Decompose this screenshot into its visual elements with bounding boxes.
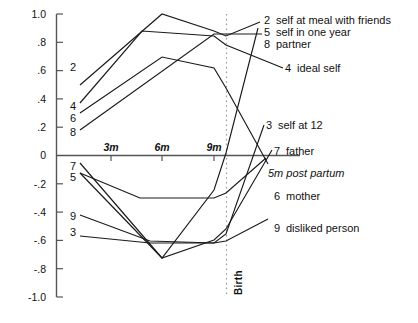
series-number-2: 2 — [62, 62, 76, 73]
legend-label-8: partner — [276, 38, 311, 50]
y-tick-label-4: .4 — [12, 94, 46, 104]
series-number-9: 9 — [62, 211, 76, 222]
legend-label-2: self at meal with friends — [276, 14, 391, 26]
repertory-grid-line-chart: 1.0 .8 .6 .4 .2 0 -.2 -.4 -.6 -.8 -1.0 3… — [0, 0, 418, 323]
legend-number-5: 5 — [258, 26, 270, 38]
y-tick-label-2: .8 — [12, 37, 46, 47]
series-number-3: 3 — [62, 227, 76, 238]
y-tick-label-3: .6 — [12, 65, 46, 75]
series-number-5: 5 — [62, 172, 76, 183]
legend-number-3: 3 — [260, 119, 272, 131]
series-number-8: 8 — [62, 127, 76, 138]
y-tick-label-1: 1.0 — [12, 9, 46, 19]
y-tick-label-6: 0 — [12, 150, 46, 160]
legend-label-7: father — [286, 145, 314, 157]
legend-label-3: self at 12 — [278, 119, 323, 131]
series-number-6: 6 — [62, 113, 76, 124]
legend-label-4: ideal self — [297, 62, 340, 74]
legend-label-6: mother — [286, 190, 320, 202]
legend-number-4: 4 — [279, 62, 291, 74]
series-line-6-lower — [80, 158, 266, 198]
legend-number-6: 6 — [268, 190, 280, 202]
legend-label-9: disliked person — [286, 222, 359, 234]
y-tick-label-11: -1.0 — [12, 292, 46, 302]
y-tick-label-9: -.6 — [12, 235, 46, 245]
x-tick-label-9m: 9m — [199, 142, 229, 153]
series-line-2 — [80, 14, 260, 85]
birth-label: Birth — [233, 270, 244, 295]
y-tick-label-10: -.8 — [12, 264, 46, 274]
series-number-4: 4 — [62, 101, 76, 112]
legend-number-7: 7 — [268, 145, 280, 157]
legend-label-post-partum: 5m post partum — [268, 167, 344, 179]
x-tick-label-6m: 6m — [147, 142, 177, 153]
legend-number-9: 9 — [268, 222, 280, 234]
y-tick-label-5: .2 — [12, 122, 46, 132]
y-tick-label-8: -.4 — [12, 207, 46, 217]
x-tick-label-3m: 3m — [96, 142, 126, 153]
y-tick-label-7: -.2 — [12, 179, 46, 189]
legend-number-8: 8 — [258, 38, 270, 50]
legend-number-2: 2 — [258, 14, 270, 26]
legend-label-5: self in one year — [276, 26, 351, 38]
